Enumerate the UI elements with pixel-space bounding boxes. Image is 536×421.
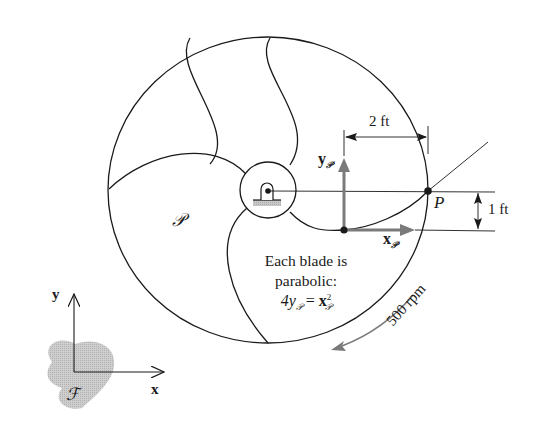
ground-frame [47,294,164,409]
equation-lhs: 4y [281,292,296,309]
x-ground-axis-label: x [151,381,159,398]
y-body-axis-letter: y [318,150,326,167]
equation-rhs-superscript: 2 [327,292,332,302]
line-pin-to-P [270,191,495,192]
x-body-axis-subscript: 𝒫 [391,240,397,250]
dim-1ft-label: 1 ft [488,201,508,218]
y-body-axis-subscript: 𝒫 [326,160,332,170]
blade-right [290,191,428,230]
dimension-1ft [474,193,482,229]
y-body-arrow-icon [338,158,350,172]
frame-blob [47,341,114,409]
y-ground-axis-label: y [52,286,60,303]
y-body-axis-label: y𝒫 [318,150,332,168]
body-origin-dot [340,226,347,233]
blade-top [266,38,297,165]
blade-equation: 4y𝒫 = x2𝒫 [236,291,376,311]
body-frame-label: 𝒫 [172,210,185,231]
point-P-dot [424,187,432,195]
ground-frame-label: ℱ [66,384,79,405]
blade-left [109,153,246,189]
caption-line-1: Each blade is [236,251,376,271]
blade-caption: Each blade is parabolic: 4y𝒫 = x2𝒫 [236,251,376,311]
x-body-axis-letter: x [383,230,391,247]
point-P-label: P [434,193,444,213]
blade-upper [186,38,217,164]
x-body-axis-label: x𝒫 [383,230,397,248]
equation-equals: = [302,292,319,309]
dim-2ft-label: 2 ft [369,113,389,130]
caption-line-2: parabolic: [236,271,376,291]
impeller-diagram [0,0,536,421]
body-axes [338,158,495,236]
equation-rhs-subscript: 𝒫 [325,302,331,312]
tangent-line [428,142,488,191]
x-body-arrow-icon [400,224,415,236]
